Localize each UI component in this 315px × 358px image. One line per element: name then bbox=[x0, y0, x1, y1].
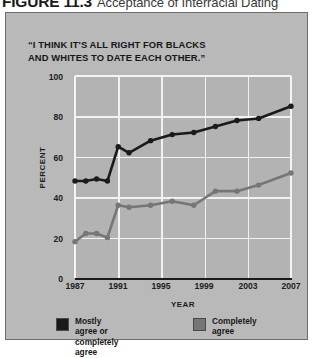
figure-title: Acceptance of Interracial Dating bbox=[97, 0, 278, 10]
data-point bbox=[191, 203, 196, 208]
y-tick-80: 80 bbox=[29, 112, 63, 122]
x-tick-2003: 2003 bbox=[225, 281, 271, 291]
chart-legend: Mostly agree or completely agree Complet… bbox=[56, 316, 304, 346]
legend-swatch-gray bbox=[193, 318, 206, 331]
legend-label-mostly-agree: Mostly agree or completely agree bbox=[75, 316, 118, 358]
data-point bbox=[213, 188, 218, 193]
data-point bbox=[94, 176, 99, 181]
data-point bbox=[148, 138, 153, 143]
x-tick-1999: 1999 bbox=[181, 281, 227, 291]
data-point bbox=[256, 182, 261, 187]
data-point bbox=[83, 178, 88, 183]
y-tick-20: 20 bbox=[29, 234, 63, 244]
y-tick-100: 100 bbox=[29, 72, 63, 82]
x-tick-2007: 2007 bbox=[268, 281, 314, 291]
data-point bbox=[105, 178, 110, 183]
data-point bbox=[288, 170, 293, 175]
data-point bbox=[256, 116, 261, 121]
plot-area bbox=[75, 76, 291, 278]
data-point bbox=[72, 239, 77, 244]
chart-panel: “I THINK IT'S ALL RIGHT FOR BLACKS AND W… bbox=[5, 12, 308, 340]
data-point bbox=[288, 104, 293, 109]
legend-label-completely-agree: Completely agree bbox=[212, 316, 257, 337]
chart-question-quote: “I THINK IT'S ALL RIGHT FOR BLACKS AND W… bbox=[28, 39, 206, 64]
data-point bbox=[126, 205, 131, 210]
x-tick-1987: 1987 bbox=[52, 281, 98, 291]
y-axis-label: PERCENT bbox=[38, 128, 47, 208]
data-point bbox=[191, 130, 196, 135]
data-point bbox=[94, 231, 99, 236]
data-point bbox=[170, 199, 175, 204]
data-point bbox=[148, 203, 153, 208]
legend-swatch-black bbox=[56, 318, 69, 331]
data-point bbox=[116, 144, 121, 149]
series-lines bbox=[75, 76, 291, 278]
data-point bbox=[170, 132, 175, 137]
x-tick-1995: 1995 bbox=[138, 281, 184, 291]
data-point bbox=[116, 203, 121, 208]
x-axis-line bbox=[75, 278, 292, 280]
figure-number: FIGURE 11.3 bbox=[2, 0, 92, 11]
data-point bbox=[234, 118, 239, 123]
data-point bbox=[234, 188, 239, 193]
data-point bbox=[213, 124, 218, 129]
data-point bbox=[126, 150, 131, 155]
data-point bbox=[83, 231, 88, 236]
data-point bbox=[72, 178, 77, 183]
x-axis-label: YEAR bbox=[75, 300, 291, 309]
data-point bbox=[105, 235, 110, 240]
x-tick-1991: 1991 bbox=[95, 281, 141, 291]
